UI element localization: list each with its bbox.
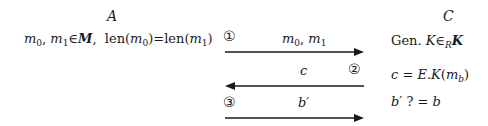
- message-2-label: c: [300, 63, 307, 78]
- key-generation-statement: Gen. K∈RK: [391, 33, 463, 50]
- arrow-3-right: [225, 114, 364, 122]
- step-2-marker: ②: [348, 61, 361, 77]
- step-1-marker: ①: [223, 28, 236, 44]
- encryption-statement: c = E.K(mb): [391, 67, 469, 84]
- guess-check-statement: b′ ? = b: [391, 94, 441, 109]
- arrow-1-right: [225, 48, 364, 56]
- arrow-2-left: [225, 82, 364, 90]
- message-3-label: b′: [298, 95, 309, 110]
- message-1-label: m0, m1: [282, 31, 326, 48]
- step-3-marker: ③: [223, 94, 236, 110]
